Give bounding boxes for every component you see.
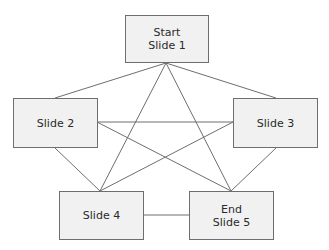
node-slide2: Slide 2 (13, 98, 98, 148)
edge-slide1-slide2 (55, 63, 166, 98)
edge-slide1-slide5 (166, 63, 231, 191)
node-slide3-label: Slide 3 (257, 117, 294, 130)
node-slide1-line2: Slide 1 (148, 39, 185, 52)
node-slide1-line1: Start (154, 26, 181, 39)
node-slide4: Slide 4 (59, 191, 144, 240)
node-slide5-line1: End (221, 203, 242, 216)
edge-slide1-slide4 (100, 63, 166, 191)
node-slide5-line2: Slide 5 (213, 216, 250, 229)
edge-slide3-slide5 (231, 148, 276, 191)
node-slide2-label: Slide 2 (37, 117, 74, 130)
edge-slide2-slide4 (55, 148, 100, 191)
edge-slide2-slide5 (97, 122, 231, 191)
node-slide1: Start Slide 1 (125, 15, 209, 63)
node-slide4-label: Slide 4 (83, 209, 120, 222)
edge-slide1-slide3 (166, 63, 276, 98)
node-slide3: Slide 3 (233, 98, 318, 148)
node-slide5: End Slide 5 (189, 191, 274, 240)
